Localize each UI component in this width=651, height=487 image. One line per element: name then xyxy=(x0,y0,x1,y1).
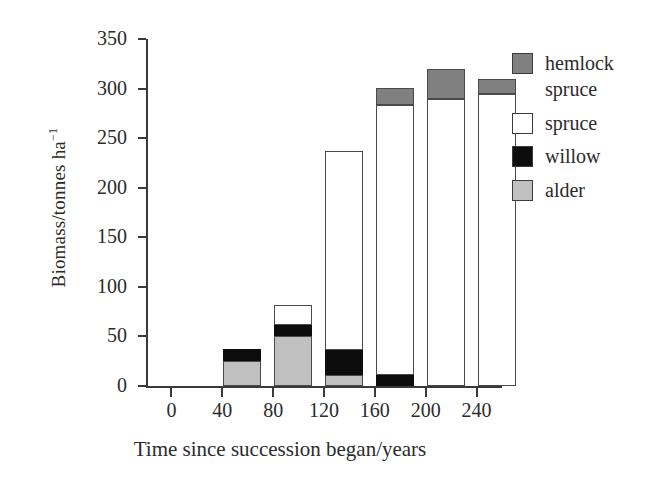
bar-segment-willow[interactable] xyxy=(223,349,261,361)
y-axis-tick: 300 xyxy=(138,88,146,90)
legend-label: willow xyxy=(545,143,601,169)
y-axis-tick: 0 xyxy=(138,385,146,387)
x-axis-title: Time since succession began/years xyxy=(60,437,500,462)
y-axis-tick: 250 xyxy=(138,137,146,139)
y-axis-tick-label: 350 xyxy=(97,28,127,48)
y-axis-tick-label: 250 xyxy=(97,127,127,147)
bar-segment-hemlock[interactable] xyxy=(427,69,465,99)
x-axis-tick-label: 160 xyxy=(360,400,390,420)
legend-swatch-hemlock xyxy=(512,53,533,74)
bar-160[interactable] xyxy=(376,88,414,386)
x-axis-tick xyxy=(476,388,478,397)
x-axis-tick-label: 40 xyxy=(212,400,232,420)
legend-item[interactable]: willow xyxy=(512,143,647,169)
y-axis-tick-label: 300 xyxy=(97,78,127,98)
bar-segment-spruce[interactable] xyxy=(274,305,312,325)
x-axis-tick-label: 120 xyxy=(309,400,339,420)
bar-segment-hemlock[interactable] xyxy=(478,79,516,94)
legend-swatch-alder xyxy=(512,180,533,201)
x-axis-tick-label: 240 xyxy=(462,400,492,420)
y-axis-line xyxy=(146,39,148,388)
y-axis-title-exponent: −1 xyxy=(46,128,60,141)
x-axis-tick-label: 80 xyxy=(263,400,283,420)
x-axis-tick xyxy=(425,388,427,397)
legend-swatch-willow xyxy=(512,146,533,167)
y-axis-tick: 100 xyxy=(138,286,146,288)
y-axis-tick-label: 200 xyxy=(97,177,127,197)
bar-segment-willow[interactable] xyxy=(274,325,312,337)
x-axis-tick xyxy=(221,388,223,397)
y-axis-tick-label: 50 xyxy=(107,325,127,345)
bar-40[interactable] xyxy=(223,349,261,386)
y-axis-tick-label: 100 xyxy=(97,276,127,296)
legend-item[interactable]: hemlock spruce xyxy=(512,50,647,103)
bar-segment-hemlock[interactable] xyxy=(376,88,414,106)
legend-swatch-spruce xyxy=(512,113,533,134)
bar-segment-spruce[interactable] xyxy=(427,99,465,387)
bar-segment-spruce[interactable] xyxy=(376,105,414,375)
bar-segment-alder[interactable] xyxy=(223,361,261,386)
bar-segment-spruce[interactable] xyxy=(478,94,516,386)
y-axis-title: Biomass/tonnes ha−1 xyxy=(46,58,69,358)
x-axis-tick-label: 200 xyxy=(411,400,441,420)
x-axis-tick xyxy=(374,388,376,397)
legend-item[interactable]: spruce xyxy=(512,110,647,136)
x-axis-tick xyxy=(323,388,325,397)
biomass-succession-chart: Biomass/tonnes ha−1 05010015020025030035… xyxy=(0,0,651,487)
bar-120[interactable] xyxy=(325,151,363,386)
y-axis-title-text: Biomass/tonnes ha xyxy=(48,141,69,287)
bar-segment-spruce[interactable] xyxy=(325,151,363,350)
legend: hemlock sprucesprucewillowalder xyxy=(512,50,647,210)
y-axis-tick: 50 xyxy=(138,335,146,337)
y-axis-tick-label: 0 xyxy=(117,375,127,395)
x-axis-tick-label: 0 xyxy=(166,400,176,420)
bar-200[interactable] xyxy=(427,69,465,386)
y-axis-tick-label: 150 xyxy=(97,226,127,246)
legend-item[interactable]: alder xyxy=(512,177,647,203)
x-axis-tick xyxy=(272,388,274,397)
bar-segment-willow[interactable] xyxy=(325,350,363,375)
x-axis-tick xyxy=(170,388,172,397)
bar-240[interactable] xyxy=(478,79,516,386)
legend-label: alder xyxy=(545,177,585,203)
legend-label: spruce xyxy=(545,110,597,136)
y-axis-tick: 350 xyxy=(138,38,146,40)
y-axis-tick: 150 xyxy=(138,236,146,238)
bar-segment-alder[interactable] xyxy=(274,336,312,386)
legend-label: hemlock spruce xyxy=(545,50,647,103)
bar-segment-willow[interactable] xyxy=(376,375,414,386)
bar-segment-alder[interactable] xyxy=(325,375,363,386)
bar-80[interactable] xyxy=(274,305,312,386)
plot-area: 050100150200250300350 04080120160200240 xyxy=(146,39,502,388)
y-axis-tick: 200 xyxy=(138,187,146,189)
